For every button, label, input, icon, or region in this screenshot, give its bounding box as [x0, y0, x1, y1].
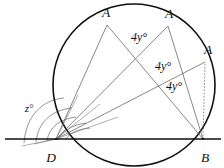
vertex-label-d: D [46, 151, 56, 165]
chord-b-a1 [107, 25, 203, 139]
vertex-label-b: B [201, 151, 209, 165]
angle-arc-second [36, 108, 72, 142]
angle-label-z: z° [25, 103, 34, 114]
ray-d-mid [56, 104, 100, 139]
angle-label-2: 4y° [155, 60, 171, 72]
vertex-marker-b [202, 138, 204, 140]
vertex-label-a1: A [102, 6, 110, 20]
figure-canvas [0, 0, 224, 168]
angle-label-1: 4y° [131, 31, 147, 43]
vertex-label-a3: A [204, 43, 212, 57]
vertex-label-a2: A [165, 7, 173, 21]
vertex-marker-d [55, 138, 57, 140]
chord-d-a1 [56, 25, 107, 139]
chord-group-from-b [107, 25, 205, 139]
angle-label-3: 4y° [166, 80, 182, 92]
circle-outline [53, 4, 215, 166]
geometry-figure: A A A D B 4y° 4y° 4y° z° [0, 0, 224, 168]
chord-d-a2 [56, 26, 168, 139]
